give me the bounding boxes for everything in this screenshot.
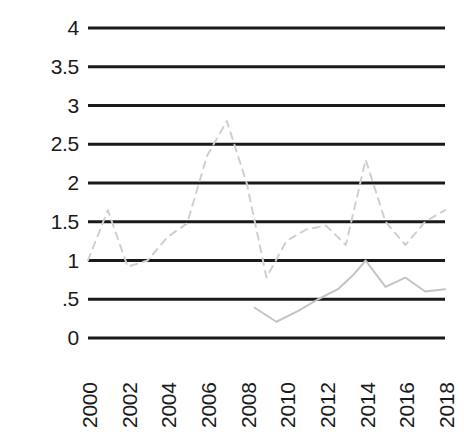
x-tick-label: 2018 — [436, 382, 457, 428]
x-tick-label: 2004 — [158, 382, 179, 428]
y-tick-label: 0 — [68, 327, 79, 348]
x-tick-label: 2000 — [79, 382, 100, 428]
x-tick-label: 2006 — [198, 382, 219, 428]
chart-container: 43.532.521.51.50 20002002200420062008201… — [0, 0, 464, 444]
y-tick-label: 1.5 — [51, 211, 79, 232]
x-tick-label: 2002 — [119, 382, 140, 428]
y-tick-label: 3 — [68, 95, 79, 116]
x-tick-label: 2014 — [357, 382, 378, 428]
y-tick-label: 1 — [68, 250, 79, 271]
y-tick-label: 4 — [68, 17, 79, 38]
x-tick-label: 2016 — [396, 382, 417, 428]
x-tick-label: 2010 — [277, 382, 298, 428]
x-tick-label: 2008 — [238, 382, 259, 428]
series-line-solid-series — [255, 261, 445, 322]
y-tick-label: 2 — [68, 172, 79, 193]
x-tick-label: 2012 — [317, 382, 338, 428]
y-tick-label: 2.5 — [51, 133, 79, 154]
gridlines-group — [88, 28, 445, 338]
y-tick-label: .5 — [62, 288, 79, 309]
y-tick-label: 3.5 — [51, 56, 79, 77]
